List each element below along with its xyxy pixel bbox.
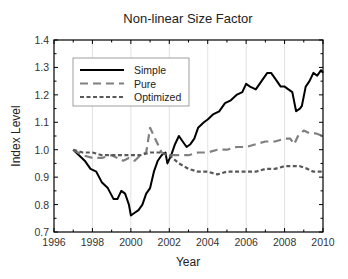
y-tick-label: 1.2 bbox=[34, 89, 49, 101]
series-pure bbox=[73, 128, 323, 161]
x-tick-label: 2000 bbox=[119, 236, 143, 248]
chart-title: Non-linear Size Factor bbox=[123, 11, 253, 26]
y-tick-label: 1.1 bbox=[34, 116, 49, 128]
y-axis-label: Index Level bbox=[9, 105, 23, 166]
x-tick-label: 2004 bbox=[196, 236, 220, 248]
x-axis-label: Year bbox=[176, 255, 200, 269]
y-tick-label: 0.7 bbox=[34, 226, 49, 238]
x-tick-label: 1998 bbox=[81, 236, 105, 248]
y-tick-label: 0.9 bbox=[34, 171, 49, 183]
x-tick-label: 2008 bbox=[273, 236, 297, 248]
y-tick-label: 1.3 bbox=[34, 61, 49, 73]
legend-label-simple: Simple bbox=[134, 64, 166, 76]
x-tick-label: 2002 bbox=[158, 236, 182, 248]
legend-label-pure: Pure bbox=[134, 78, 156, 90]
x-tick-label: 2010 bbox=[311, 236, 335, 248]
y-tick-label: 1.0 bbox=[34, 144, 49, 156]
legend: SimplePureOptimized bbox=[73, 58, 189, 106]
y-tick-label: 1.4 bbox=[34, 34, 49, 46]
x-tick-label: 2006 bbox=[234, 236, 258, 248]
line-chart: Non-linear Size Factor 19961998200020022… bbox=[0, 0, 348, 279]
legend-label-optimized: Optimized bbox=[134, 91, 181, 103]
y-tick-label: 0.8 bbox=[34, 199, 49, 211]
